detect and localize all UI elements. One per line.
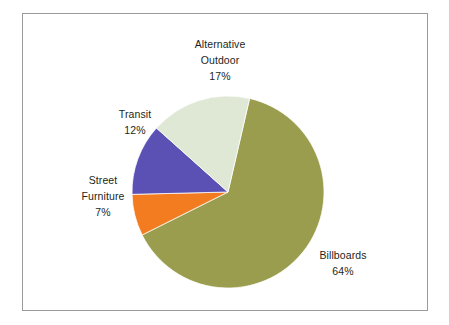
pie-plot-area: Alternative Outdoor 17% Transit 12% Stre… [0,0,449,325]
slice-label-alternative-outdoor-line2: Outdoor [160,52,280,68]
slice-value-billboards: 64% [296,263,390,279]
slice-label-billboards: Billboards 64% [296,247,390,279]
slice-label-alternative-outdoor: Alternative Outdoor 17% [160,36,280,84]
slice-label-alternative-outdoor-line1: Alternative [160,36,280,52]
slice-label-street-furniture-line1: Street [56,172,150,188]
slice-label-street-furniture: Street Furniture 7% [56,172,150,220]
slice-value-transit: 12% [96,122,174,138]
pie-chart-figure: Alternative Outdoor 17% Transit 12% Stre… [0,0,449,325]
slice-value-street-furniture: 7% [56,204,150,220]
slice-label-street-furniture-line2: Furniture [56,188,150,204]
slice-label-transit-line1: Transit [96,106,174,122]
slice-label-transit: Transit 12% [96,106,174,138]
slice-label-billboards-line1: Billboards [296,247,390,263]
slice-value-alternative-outdoor: 17% [160,68,280,84]
